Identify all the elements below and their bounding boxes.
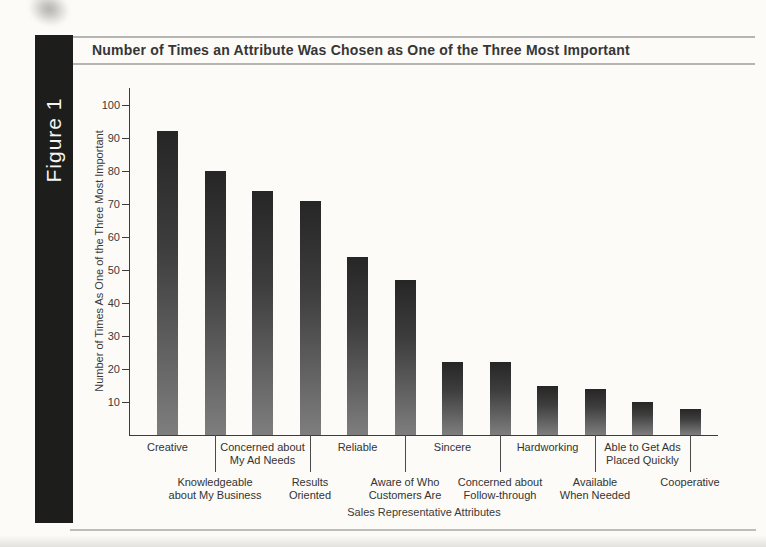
y-tick-label-80: 80 [80,165,120,177]
y-tick-label-30: 30 [80,330,120,342]
bar-chart: Number of Times As One of the Three Most… [0,0,766,547]
bar-aware-of-who-customers-are [395,280,416,435]
bar-able-to-get-ads-placed-quickly [632,402,653,435]
y-tick-label-10: 10 [80,396,120,408]
y-tick-60 [122,237,129,238]
x-label-cooperative: Cooperative [632,476,748,489]
y-tick-40 [122,303,129,304]
x-axis-title: Sales Representative Attributes [130,506,718,518]
y-tick-80 [122,171,129,172]
y-tick-50 [122,270,129,271]
y-tick-90 [122,138,129,139]
y-tick-label-20: 20 [80,363,120,375]
paper-edge-shade [0,535,766,547]
y-tick-20 [122,369,129,370]
y-tick-30 [122,336,129,337]
y-tick-label-70: 70 [80,198,120,210]
x-label-able-to-get-ads-placed-quickly: Able to Get Ads Placed Quickly [585,441,701,467]
y-tick-label-90: 90 [80,132,120,144]
bar-creative [157,131,178,435]
y-tick-70 [122,204,129,205]
y-tick-label-40: 40 [80,297,120,309]
y-tick-label-50: 50 [80,264,120,276]
bar-sincere [442,362,463,435]
y-tick-label-100: 100 [80,99,120,111]
x-axis-line [129,435,718,436]
bar-available-when-needed [585,389,606,435]
bar-concerned-about-my-ad-needs [252,191,273,435]
y-tick-100 [122,105,129,106]
bar-hardworking [537,386,558,436]
y-tick-10 [122,402,129,403]
bar-reliable [347,257,368,435]
y-tick-label-60: 60 [80,231,120,243]
bar-knowledgeable-about-my-business [205,171,226,435]
bar-concerned-about-follow-through [490,362,511,435]
bar-results-oriented [300,201,321,435]
figure-page: Figure 1 Number of Times an Attribute Wa… [0,0,766,547]
y-axis-line [129,88,130,435]
figure-bottom-rule [70,529,756,531]
bar-cooperative [680,409,701,435]
